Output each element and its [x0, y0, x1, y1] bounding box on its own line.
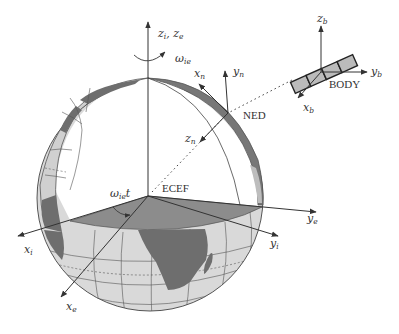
- z-ie-label: zi, ze: [157, 27, 184, 41]
- body-label: BODY: [329, 78, 360, 90]
- coordinate-frames-diagram: zi, ze ωie ωiet ECEF NED BODY xi xe ye y…: [0, 0, 399, 334]
- rotation-arrow-icon: [134, 52, 165, 61]
- x-i-label: xi: [24, 243, 33, 257]
- y-i-label: yi: [269, 237, 279, 251]
- ned-label: NED: [243, 109, 266, 121]
- omega-ie-label: ωie: [175, 52, 191, 66]
- x-n-label: xn: [194, 67, 205, 81]
- y-b-label: yb: [370, 65, 382, 79]
- x-b-label: xb: [303, 101, 314, 115]
- y-n-axis: [225, 71, 228, 113]
- ecef-label: ECEF: [162, 182, 189, 194]
- z-b-label: zb: [316, 12, 328, 26]
- x-e-label: xe: [66, 300, 77, 314]
- y-n-label: yn: [232, 65, 244, 79]
- y-e-label: ye: [306, 212, 318, 226]
